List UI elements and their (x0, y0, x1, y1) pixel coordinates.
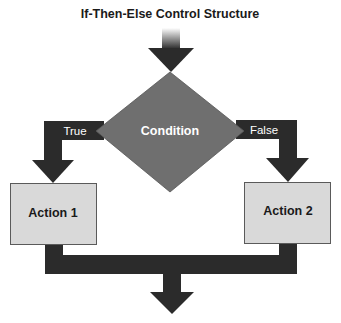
condition-label: Condition (141, 124, 199, 138)
merge-arrow-icon (45, 242, 297, 314)
false-label: False (250, 124, 278, 136)
flowchart: If-Then-Else Control Structure Condition… (0, 0, 341, 323)
diagram-title: If-Then-Else Control Structure (81, 7, 260, 21)
true-label: True (63, 125, 86, 137)
entry-arrow-icon (148, 28, 194, 72)
action-2-label: Action 2 (263, 204, 312, 218)
action-1-label: Action 1 (28, 206, 77, 220)
flowchart-canvas: If-Then-Else Control Structure Condition… (0, 0, 341, 323)
